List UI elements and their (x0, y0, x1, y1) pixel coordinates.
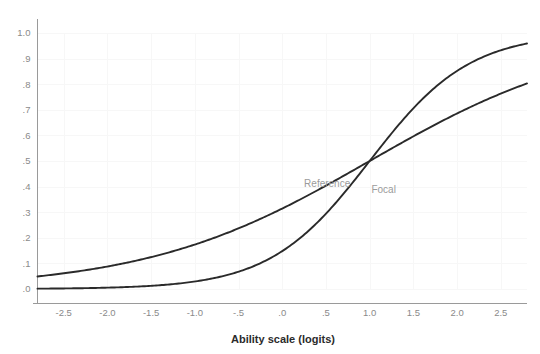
y-axis-tick-label: .6 (23, 130, 31, 141)
y-axis-tick-label: .5 (23, 155, 31, 166)
y-axis-tick-label: .4 (23, 181, 31, 192)
x-axis-tick-label: 2.5 (494, 307, 507, 318)
y-axis-tick-label: 1.0 (17, 27, 30, 38)
x-axis-tick-label: .5 (322, 307, 330, 318)
x-axis-tick-label: -2.0 (99, 307, 115, 318)
y-axis-tick-label: .7 (23, 104, 31, 115)
y-axis-tick-label: .1 (23, 258, 31, 269)
series-label-focal: Focal (371, 184, 395, 195)
icc-chart-svg: .0.1.2.3.4.5.6.7.8.91.0 -2.5-2.0-1.5-1.0… (0, 0, 540, 354)
x-axis-tick-label: -.5 (233, 307, 244, 318)
chart-container: .0.1.2.3.4.5.6.7.8.91.0 -2.5-2.0-1.5-1.0… (0, 0, 540, 354)
x-axis-tick-label: 1.5 (407, 307, 420, 318)
y-axis-tick-label: .0 (23, 283, 31, 294)
x-axis-tick-label: -2.5 (56, 307, 72, 318)
x-axis-tick-label: 2.0 (450, 307, 463, 318)
y-axis-tick-label: .9 (23, 53, 31, 64)
y-axis-tick-label: .2 (23, 232, 31, 243)
x-axis-tick-label: 1.0 (363, 307, 376, 318)
x-axis-title: Ability scale (logits) (231, 333, 335, 345)
y-axis-tick-label: .3 (23, 207, 31, 218)
x-axis-tick-label: .0 (278, 307, 286, 318)
series-label-reference: Reference (304, 178, 351, 189)
x-axis-tick-label: -1.5 (143, 307, 159, 318)
y-axis-tick-label: .8 (23, 79, 31, 90)
x-axis-tick-label: -1.0 (187, 307, 203, 318)
chart-background (0, 0, 540, 354)
